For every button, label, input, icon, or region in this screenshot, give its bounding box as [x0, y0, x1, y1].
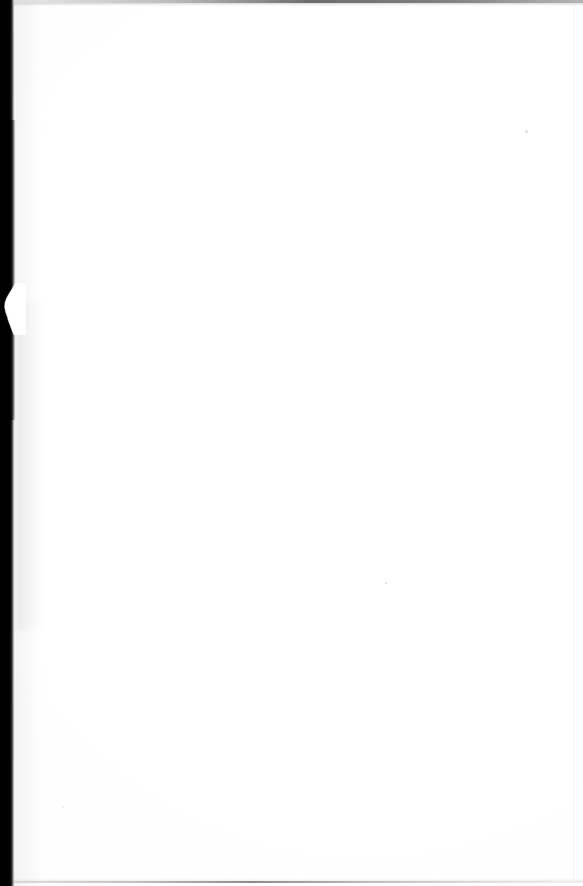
right-margin-line [573, 6, 574, 880]
scanned-page [0, 0, 583, 886]
bottom-scan-edge-line [12, 881, 583, 883]
paper-tone-vignette [13, 0, 583, 886]
bottom-scan-edge-softshadow [12, 878, 583, 881]
scan-speck [62, 806, 64, 808]
torn-page-edge-notch [0, 283, 26, 335]
binding-gutter-wide-band [0, 120, 16, 420]
top-scan-edge-softshadow [14, 3, 583, 6]
torn-page-edge-shape [0, 283, 26, 335]
scan-speck [385, 582, 387, 584]
page-crease-shading [16, 300, 50, 630]
scan-speck [525, 130, 528, 133]
